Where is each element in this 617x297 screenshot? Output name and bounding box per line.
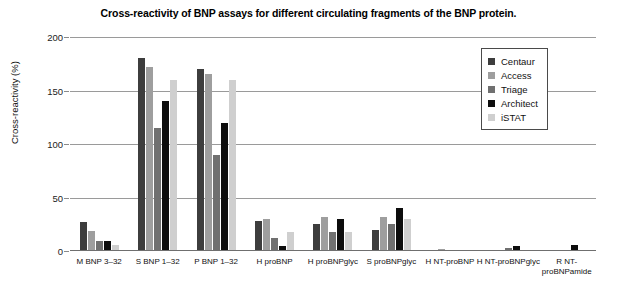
legend-swatch-icon <box>488 86 495 93</box>
y-axis-title: Cross-reactivity (%) <box>9 61 20 144</box>
bar-group <box>304 37 362 251</box>
bar <box>170 80 177 251</box>
legend-item-centaur[interactable]: Centaur <box>488 54 538 68</box>
chart-legend: CentaurAccessTriageArchitectiSTAT <box>481 48 548 130</box>
bar <box>80 222 87 251</box>
bar-group <box>421 37 479 251</box>
bar <box>321 217 328 251</box>
bar <box>404 219 411 251</box>
bar <box>138 58 145 251</box>
bar-group <box>245 37 303 251</box>
y-tick-mark <box>64 144 69 145</box>
y-tick-label: 100 <box>47 139 63 150</box>
x-tick-label: R NT-proBNPamide <box>532 257 602 276</box>
legend-item-triage[interactable]: Triage <box>488 82 538 96</box>
legend-label: Centaur <box>501 56 535 67</box>
bar <box>388 224 395 251</box>
y-tick-label: 150 <box>47 85 63 96</box>
legend-swatch-icon <box>488 58 495 65</box>
x-axis-line <box>70 250 596 252</box>
chart-figure: Cross-reactivity of BNP assays for diffe… <box>0 0 617 297</box>
y-tick-mark <box>64 251 69 252</box>
legend-item-architect[interactable]: Architect <box>488 96 538 110</box>
y-tick-label: 0 <box>58 246 63 257</box>
bar <box>396 208 403 251</box>
bar <box>213 155 220 251</box>
bar <box>337 219 344 251</box>
bar-group <box>187 37 245 251</box>
bar <box>255 221 262 251</box>
bar-group <box>128 37 186 251</box>
bar <box>313 224 320 251</box>
bar <box>229 80 236 251</box>
bar <box>162 101 169 251</box>
y-tick-label: 50 <box>52 192 63 203</box>
legend-swatch-icon <box>488 100 495 107</box>
y-tick-label: 200 <box>47 32 63 43</box>
bar-group <box>362 37 420 251</box>
legend-label: iSTAT <box>501 112 526 123</box>
bar <box>88 231 95 251</box>
bar <box>146 67 153 251</box>
bar <box>221 123 228 251</box>
bar-group <box>70 37 128 251</box>
y-tick-mark <box>64 198 69 199</box>
legend-item-istat[interactable]: iSTAT <box>488 110 538 124</box>
legend-swatch-icon <box>488 72 495 79</box>
y-tick-mark <box>64 37 69 38</box>
bar <box>380 217 387 251</box>
y-tick-mark <box>64 91 69 92</box>
legend-label: Triage <box>501 84 528 95</box>
legend-label: Access <box>501 70 532 81</box>
chart-title: Cross-reactivity of BNP assays for diffe… <box>0 7 617 19</box>
bar <box>329 232 336 251</box>
bar <box>197 69 204 251</box>
bar <box>287 232 294 251</box>
legend-swatch-icon <box>488 114 495 121</box>
bar <box>263 219 270 251</box>
legend-label: Architect <box>501 98 538 109</box>
bar <box>154 128 161 251</box>
bar <box>372 230 379 251</box>
bar <box>205 74 212 251</box>
legend-item-access[interactable]: Access <box>488 68 538 82</box>
bar <box>345 232 352 251</box>
